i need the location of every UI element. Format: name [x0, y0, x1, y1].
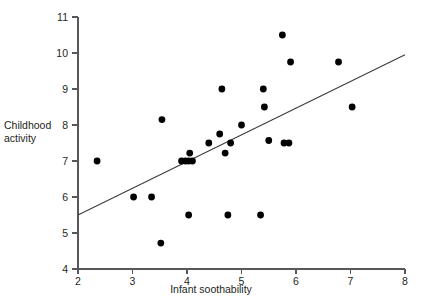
data-point [218, 86, 225, 93]
y-tick-label: 4 [62, 263, 68, 275]
data-point [265, 137, 272, 144]
scatter-plot-figure: 4567891011 2345678 Infant soothability C… [0, 0, 422, 306]
data-point [287, 59, 294, 66]
y-tick-label: 5 [62, 227, 68, 239]
data-point [186, 150, 193, 157]
data-point [349, 104, 356, 111]
y-tick-label: 6 [62, 191, 68, 203]
data-point [260, 86, 267, 93]
data-point [261, 104, 268, 111]
data-point [238, 122, 245, 129]
regression-line [78, 55, 405, 215]
data-point [159, 116, 166, 123]
x-axis-title: Infant soothability [0, 283, 422, 296]
data-point [227, 140, 234, 147]
plot-canvas: 4567891011 2345678 [0, 0, 422, 306]
data-point [130, 194, 137, 201]
y-tick-label: 9 [62, 83, 68, 95]
data-point [257, 212, 264, 219]
data-point [222, 150, 229, 157]
regression-line-group [78, 55, 405, 215]
data-point [279, 32, 286, 39]
data-point [94, 158, 101, 165]
data-point [286, 140, 293, 147]
data-point [189, 158, 196, 165]
axes [78, 17, 405, 269]
data-point [148, 194, 155, 201]
data-point [335, 59, 342, 66]
y-axis-title: Childhood activity [4, 119, 64, 145]
data-point [224, 212, 231, 219]
y-tick-label: 11 [57, 11, 68, 23]
y-tick-label: 10 [56, 47, 68, 59]
data-point [157, 240, 164, 247]
data-point [185, 212, 192, 219]
data-point [205, 140, 212, 147]
data-point [216, 131, 223, 138]
data-points-group [94, 32, 356, 247]
y-tick-label: 7 [62, 155, 68, 167]
